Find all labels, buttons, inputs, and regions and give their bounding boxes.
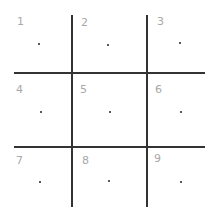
cell-dot-9 <box>180 181 182 183</box>
cell-label-4: 4 <box>16 84 23 95</box>
cell-label-3: 3 <box>157 16 164 27</box>
cell-dot-8 <box>108 180 110 182</box>
cell-dot-7 <box>39 181 41 183</box>
vertical-line-1 <box>71 15 73 207</box>
cell-dot-1 <box>38 43 40 45</box>
cell-label-2: 2 <box>81 17 88 28</box>
cell-dot-2 <box>107 44 109 46</box>
cell-label-6: 6 <box>155 84 162 95</box>
horizontal-line-2 <box>14 146 205 148</box>
vertical-line-2 <box>146 15 148 207</box>
horizontal-line-1 <box>14 72 205 74</box>
cell-dot-6 <box>180 111 182 113</box>
cell-label-1: 1 <box>17 16 24 27</box>
cell-dot-3 <box>179 42 181 44</box>
cell-label-9: 9 <box>154 153 161 164</box>
cell-label-5: 5 <box>80 84 87 95</box>
cell-dot-5 <box>109 111 111 113</box>
cell-label-8: 8 <box>82 155 89 166</box>
cell-label-7: 7 <box>16 155 23 166</box>
cell-dot-4 <box>40 111 42 113</box>
